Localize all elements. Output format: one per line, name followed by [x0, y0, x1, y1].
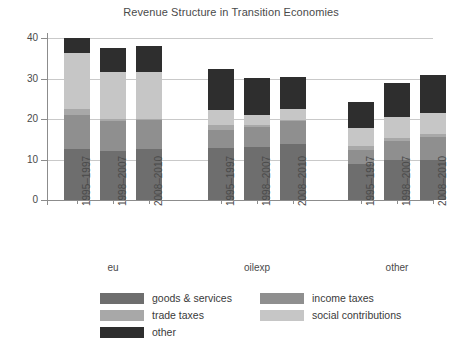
bar-segment-social-contributions — [64, 53, 90, 109]
x-axis-tick-label: 1998–2007 — [117, 156, 128, 206]
chart-container: Revenue Structure in Transition Economie… — [0, 0, 462, 351]
legend-label: income taxes — [312, 292, 374, 304]
chart-title: Revenue Structure in Transition Economie… — [0, 6, 462, 18]
x-axis-tick — [113, 200, 114, 204]
x-axis-tick — [397, 200, 398, 204]
bar-segment-other — [280, 77, 306, 109]
y-axis-tick-label: 0 — [0, 194, 38, 205]
legend-label: other — [152, 326, 176, 338]
group-label-oilexp: oilexp — [217, 262, 297, 273]
bar-segment-social-contributions — [384, 117, 410, 139]
legend-label: trade taxes — [152, 309, 204, 321]
legend-label: goods & services — [152, 292, 232, 304]
bar-segment-other — [208, 69, 234, 110]
legend-swatch — [100, 310, 144, 321]
chart-legend: goods & servicesincome taxestrade taxess… — [100, 292, 400, 344]
x-axis-tick — [361, 200, 362, 204]
group-label-eu: eu — [73, 262, 153, 273]
bar-segment-income-taxes — [136, 120, 162, 149]
x-axis-tick-label: 2008–2010 — [153, 156, 164, 206]
bar-segment-social-contributions — [244, 115, 270, 126]
bar-segment-social-contributions — [280, 109, 306, 120]
x-axis-tick — [149, 200, 150, 204]
y-axis-tick — [41, 160, 47, 161]
y-axis-tick-label: 20 — [0, 113, 38, 124]
y-axis-tick — [41, 79, 47, 80]
y-axis-tick-label: 30 — [0, 73, 38, 84]
x-axis-tick — [221, 200, 222, 204]
gridline — [48, 38, 433, 39]
bar-segment-other — [136, 46, 162, 73]
bar-segment-other — [64, 38, 90, 53]
x-axis-tick — [433, 200, 434, 204]
bar-segment-other — [384, 83, 410, 116]
x-axis-tick-label: 1995–1997 — [365, 156, 376, 206]
x-axis-tick-label: 2008–2010 — [437, 156, 448, 206]
x-axis-tick — [293, 200, 294, 204]
x-axis-tick-label: 1998–2007 — [401, 156, 412, 206]
bar-segment-other — [244, 78, 270, 115]
x-axis-tick-label: 1995–1997 — [81, 156, 92, 206]
bar-segment-social-contributions — [420, 113, 446, 134]
bar-segment-income-taxes — [244, 127, 270, 146]
y-axis-tick-labels: 010203040 — [0, 38, 38, 200]
legend-swatch — [260, 310, 304, 321]
bar-segment-income-taxes — [64, 115, 90, 149]
bar-segment-social-contributions — [100, 72, 126, 119]
bar-segment-other — [348, 102, 374, 128]
bar-segment-other — [100, 48, 126, 73]
x-axis-tick — [77, 200, 78, 204]
legend-swatch — [100, 293, 144, 304]
x-axis-tick-label: 1998–2007 — [261, 156, 272, 206]
legend-swatch — [100, 327, 144, 338]
bar-segment-social-contributions — [208, 110, 234, 125]
x-axis-tick-label: 2008–2010 — [297, 156, 308, 206]
x-axis-tick-label: 1995–1997 — [225, 156, 236, 206]
group-label-other: other — [357, 262, 437, 273]
y-axis-tick-label: 10 — [0, 154, 38, 165]
x-axis-tick — [257, 200, 258, 204]
y-axis-tick — [41, 119, 47, 120]
bar-segment-social-contributions — [348, 128, 374, 146]
bar-segment-income-taxes — [100, 121, 126, 151]
y-axis-tick — [41, 200, 47, 201]
bar-segment-income-taxes — [208, 130, 234, 148]
bar-segment-other — [420, 75, 446, 113]
y-axis-tick-label: 40 — [0, 32, 38, 43]
bar-segment-social-contributions — [136, 72, 162, 119]
y-axis-tick — [41, 38, 47, 39]
bar-segment-income-taxes — [280, 121, 306, 144]
legend-label: social contributions — [312, 309, 401, 321]
legend-swatch — [260, 293, 304, 304]
